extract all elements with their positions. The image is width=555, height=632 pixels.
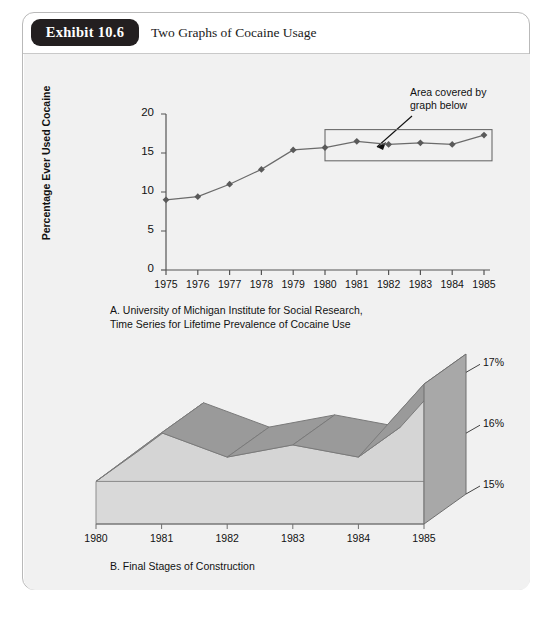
percent-tick-leader — [466, 364, 480, 372]
data-point-marker — [353, 138, 360, 145]
exhibit-title: Two Graphs of Cocaine Usage — [151, 25, 317, 41]
graph-a-line-chart: Area covered by graph below Percentage E… — [24, 54, 530, 309]
data-point-marker — [194, 193, 201, 200]
y-tick-label: 10 — [128, 184, 154, 196]
graph-b-x-tick-label: 1982 — [205, 532, 249, 544]
y-tick-label: 20 — [128, 106, 154, 118]
graph-b-x-tick-label: 1980 — [74, 532, 118, 544]
percent-tick-leader — [466, 425, 480, 433]
percent-label: 17% — [483, 356, 504, 368]
percent-tick-leader — [466, 486, 480, 494]
ribbon-surface — [96, 354, 466, 481]
y-tick-label: 15 — [128, 145, 154, 157]
data-point-marker — [322, 144, 329, 151]
exhibit-header: Exhibit 10.6 Two Graphs of Cocaine Usage — [23, 13, 529, 47]
y-tick-label: 5 — [128, 223, 154, 235]
exhibit-card: Exhibit 10.6 Two Graphs of Cocaine Usage… — [22, 12, 530, 590]
callout-arrow-icon — [377, 116, 412, 150]
graph-b-x-tick-label: 1981 — [140, 532, 184, 544]
percent-label: 16% — [483, 417, 504, 429]
graph-b-caption: B. Final Stages of Construction — [110, 560, 255, 572]
exhibit-number-badge: Exhibit 10.6 — [31, 19, 139, 46]
highlight-rectangle — [325, 130, 492, 161]
graph-b-x-tick-label: 1985 — [402, 532, 446, 544]
data-point-marker — [481, 132, 488, 139]
data-point-marker — [417, 139, 424, 146]
graph-b-svg — [24, 342, 530, 557]
right-wall-face — [424, 354, 466, 524]
y-tick-label: 0 — [128, 262, 154, 274]
graph-b-area-chart-3d: 198019811982198319841985 15%16%17% — [24, 342, 530, 557]
graph-a-svg — [24, 54, 530, 309]
data-point-marker — [163, 196, 170, 203]
base-slab — [96, 481, 424, 524]
graph-b-x-tick-label: 1983 — [271, 532, 315, 544]
graph-b-x-tick-label: 1984 — [336, 532, 380, 544]
x-tick-label: 1985 — [464, 278, 504, 290]
percent-label: 15% — [483, 478, 504, 490]
data-point-marker — [290, 146, 297, 153]
exhibit-body-panel: Area covered by graph below Percentage E… — [24, 54, 530, 590]
right-wall — [424, 354, 466, 524]
base-front-face — [96, 481, 424, 524]
data-point-marker — [385, 141, 392, 148]
data-point-marker — [449, 141, 456, 148]
data-point-marker — [226, 181, 233, 188]
caption-a-line-1: A. University of Michigan Institute for … — [110, 303, 363, 317]
caption-a-line-2: Time Series for Lifetime Prevalence of C… — [110, 317, 363, 331]
graph-a-caption: A. University of Michigan Institute for … — [110, 303, 363, 331]
data-point-marker — [258, 166, 265, 173]
